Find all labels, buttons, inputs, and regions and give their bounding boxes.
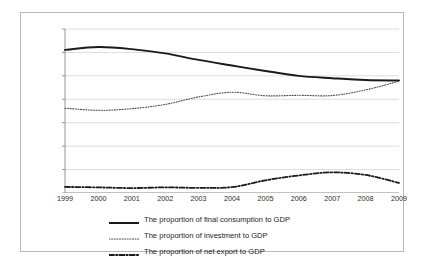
legend-swatch-dotted (109, 230, 139, 240)
y-axis-tick-labels: 0.00%10.00%20.00%30.00%40.00%50.00%60.00… (21, 13, 65, 193)
x-axis-tick-labels: 1999200020012002200320042005200620072008… (21, 194, 405, 208)
legend-swatch-solid (109, 214, 139, 224)
chart-container: 0.00%10.00%20.00%30.00%40.00%50.00%60.00… (20, 12, 404, 252)
chart-legend: The proportion of final consumption to G… (21, 211, 405, 259)
chart-svg (21, 13, 405, 193)
legend-item[interactable]: The proportion of net export to GDP (21, 243, 405, 259)
legend-label: The proportion of net export to GDP (144, 247, 265, 256)
x-tick-label: 2002 (157, 194, 173, 203)
legend-item[interactable]: The proportion of investment to GDP (21, 227, 405, 243)
axis-lines (62, 29, 399, 193)
series-line-1 (65, 81, 399, 110)
x-tick-label: 2003 (191, 194, 207, 203)
x-tick-label: 2001 (124, 194, 140, 203)
legend-swatch-dashdot (109, 246, 139, 256)
series-lines (65, 47, 399, 188)
gridlines (65, 29, 399, 193)
x-tick-label: 2005 (257, 194, 273, 203)
series-line-2 (65, 172, 399, 188)
x-tick-label: 2004 (224, 194, 240, 203)
x-tick-label: 1999 (57, 194, 73, 203)
x-tick-label: 2007 (324, 194, 340, 203)
x-tick-label: 2009 (391, 194, 407, 203)
legend-label: The proportion of investment to GDP (144, 231, 268, 240)
x-tick-label: 2000 (90, 194, 106, 203)
x-tick-label: 2006 (291, 194, 307, 203)
legend-item[interactable]: The proportion of final consumption to G… (21, 211, 405, 227)
x-tick-label: 2008 (358, 194, 374, 203)
legend-label: The proportion of final consumption to G… (144, 215, 290, 224)
plot-area: 0.00%10.00%20.00%30.00%40.00%50.00%60.00… (21, 13, 405, 193)
